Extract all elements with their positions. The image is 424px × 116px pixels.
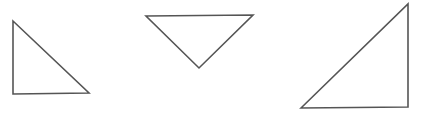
right-triangle-left: [13, 21, 89, 94]
right-triangle-right: [301, 4, 408, 108]
inverted-triangle-middle: [146, 15, 253, 68]
triangles-svg: [0, 0, 424, 116]
diagram-canvas: [0, 0, 424, 116]
